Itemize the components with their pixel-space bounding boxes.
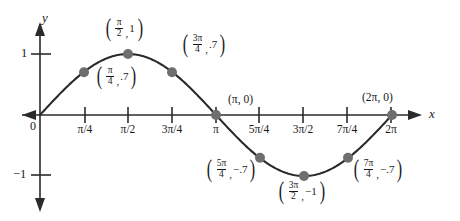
- point-label-pi-over-4: ( π 4 , .7 ): [95, 66, 138, 86]
- fraction: 3π 4: [191, 34, 205, 54]
- x-tick-label-6: 7π/4: [334, 124, 360, 136]
- left-paren: (: [354, 161, 359, 177]
- point-label-7pi-over-4: ( 7π 4 , −.7 ): [352, 159, 404, 179]
- x-tick-label-2: 3π/4: [159, 124, 185, 136]
- data-point-1: [79, 67, 89, 77]
- right-paren: ): [397, 161, 402, 177]
- data-point-8: [387, 110, 397, 120]
- x-tick-label-3: π: [203, 124, 229, 136]
- left-paren: (: [97, 68, 102, 84]
- comma: ,: [204, 43, 209, 55]
- data-point-6: [299, 171, 309, 181]
- comma: ,: [375, 168, 380, 180]
- left-paren: (: [207, 161, 212, 177]
- sine-curve-figure: y x 0 1 −1 π/4π/23π/4π5π/43π/27π/42π ( π…: [0, 0, 460, 221]
- comma: ,: [115, 75, 120, 87]
- y-value: 1: [129, 22, 135, 34]
- data-point-4: [211, 110, 221, 120]
- x-tick-label-1: π/2: [115, 124, 141, 136]
- y-value: −1: [305, 185, 317, 197]
- fraction: 3π 2: [287, 181, 301, 201]
- x-tick-label-7: 2π: [378, 124, 404, 136]
- y-tick-label-neg1: −1: [13, 168, 26, 181]
- origin-label: 0: [30, 120, 36, 132]
- y-value: −.7: [380, 163, 394, 175]
- y-axis: [35, 22, 45, 212]
- right-paren: ): [137, 20, 142, 36]
- right-paren: ): [250, 161, 255, 177]
- fraction: 7π 4: [362, 159, 376, 179]
- point-label-3pi-over-2: ( 3π 2 , −1 ): [277, 181, 326, 201]
- left-paren: (: [183, 36, 188, 52]
- y-value: .7: [120, 70, 128, 82]
- x-axis-label: x: [429, 107, 435, 120]
- y-axis-label: y: [42, 11, 48, 24]
- right-paren: ): [220, 36, 225, 52]
- comma: ,: [300, 190, 305, 202]
- fraction: π 2: [114, 18, 125, 38]
- y-value: −.7: [233, 163, 247, 175]
- x-axis-right-arrow: [408, 110, 422, 120]
- graph-canvas: [0, 0, 460, 221]
- y-value: .7: [209, 38, 217, 50]
- point-label-2pi-zero: (2π, 0): [362, 92, 393, 104]
- y-tick-label-1: 1: [21, 47, 27, 60]
- left-paren: (: [279, 183, 284, 199]
- y-axis-down-arrow: [35, 198, 45, 212]
- data-point-3: [167, 67, 177, 77]
- x-axis: [22, 110, 422, 120]
- right-paren: ): [131, 68, 136, 84]
- fraction: π 4: [105, 66, 116, 86]
- comma: ,: [228, 168, 233, 180]
- x-tick-label-5: 3π/2: [290, 124, 316, 136]
- data-point-2: [123, 49, 133, 59]
- point-label-5pi-over-4: ( 5π 4 , −.7 ): [205, 159, 257, 179]
- x-tick-label-0: π/4: [72, 124, 98, 136]
- point-label-pi-zero: (π, 0): [228, 94, 253, 106]
- fraction: 5π 4: [215, 159, 229, 179]
- point-label-3pi-over-4: ( 3π 4 , .7 ): [181, 34, 227, 54]
- left-paren: (: [106, 20, 111, 36]
- comma: ,: [124, 27, 129, 39]
- right-paren: ): [319, 183, 324, 199]
- point-label-pi-over-2: ( π 2 , 1 ): [104, 18, 144, 38]
- x-tick-label-4: 5π/4: [246, 124, 272, 136]
